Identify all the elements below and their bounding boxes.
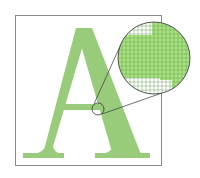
letter-a-diagram [0, 0, 200, 178]
